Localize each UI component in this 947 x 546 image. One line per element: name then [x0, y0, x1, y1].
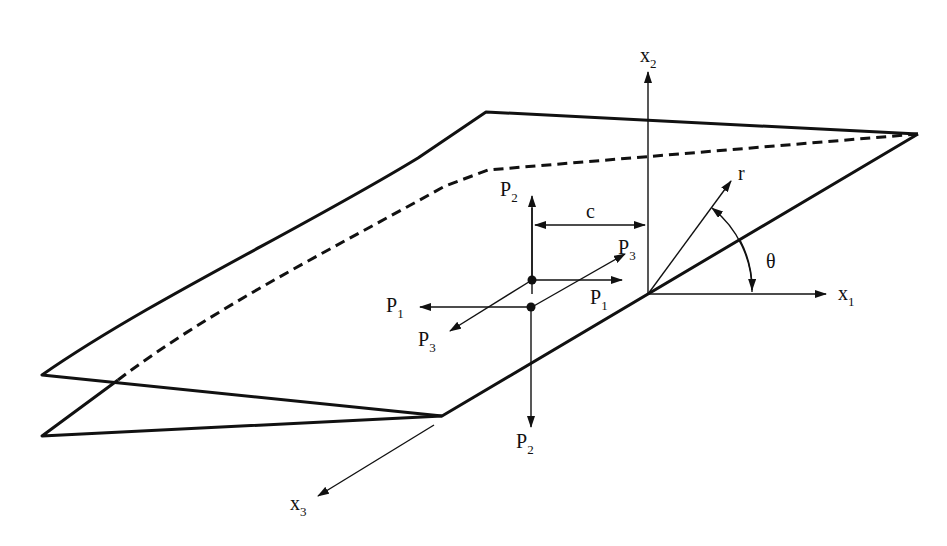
- p1-left-label: P1: [386, 294, 404, 321]
- r-ray: [648, 181, 731, 294]
- x3-label: x3: [290, 492, 307, 519]
- p2-bottom-label: P2: [516, 430, 534, 457]
- c-label: c: [586, 200, 595, 222]
- upper-crack-face: [42, 112, 918, 416]
- crack-diagram: x2 x1 x3 r θ c P2 P3 P1 P1 P3 P2: [0, 0, 947, 546]
- x2-label: x2: [640, 44, 657, 71]
- p3-right-label: P3: [618, 236, 636, 263]
- p2-top-label: P2: [500, 178, 518, 205]
- r-label: r: [738, 162, 745, 184]
- theta-arc: [712, 208, 752, 292]
- p1-right-label: P1: [590, 286, 608, 313]
- p3-left-label: P3: [418, 328, 436, 355]
- x1-label: x1: [838, 282, 855, 309]
- x3-axis: [318, 425, 434, 496]
- lower-crack-face: [42, 134, 918, 436]
- hidden-crack-edge: [118, 134, 918, 380]
- theta-label: θ: [766, 250, 776, 272]
- p3-down-arrow: [450, 280, 532, 331]
